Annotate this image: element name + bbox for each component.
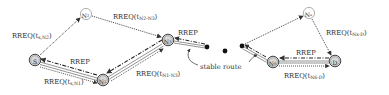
svg-text:D: D [333,58,338,65]
stable-route-label: stable route [200,63,241,71]
ellipsis-dots [205,44,245,54]
node-n1: N1 [97,74,109,86]
label-rreq-n2-n3: RREQ(tN2-N3) [113,13,158,21]
svg-text:S: S [33,57,37,64]
node-n6: N6 [267,56,279,68]
edge-dot-nx [245,16,303,44]
ellipsis-dot [240,44,245,49]
edge-n3-dot [174,38,205,48]
label-rrep-right: RREP [296,49,316,57]
label-rrep-mid: RREP [178,29,198,37]
node-nx: Nx [303,7,314,18]
routing-diagram: S N1 N2 N3 Nx N6 D RREQ(ts,N2) RREQ(tN2-… [0,0,389,95]
edge-dot-n6 [243,45,267,62]
label-rrep-left: RREP [70,58,90,66]
label-rreq-nx-d: RREQ(tNx-D) [326,29,367,37]
edge-n6-d [279,58,329,66]
label-rreq-n1-n3: RREQ(tN1-N3) [136,70,181,78]
node-n3: N3 [162,34,174,46]
ellipsis-dot [223,49,228,54]
node-s: S [29,54,41,66]
node-d: D [329,55,341,67]
ellipsis-dot [205,45,210,50]
label-rreq-s-n1: RREQ(ts,N1) [44,78,84,86]
label-rreq-s-n2: RREQ(ts,N2) [12,32,52,40]
label-rreq-n6-d: RREQ(tN6-D) [284,72,325,80]
node-n2: N2 [80,8,91,19]
